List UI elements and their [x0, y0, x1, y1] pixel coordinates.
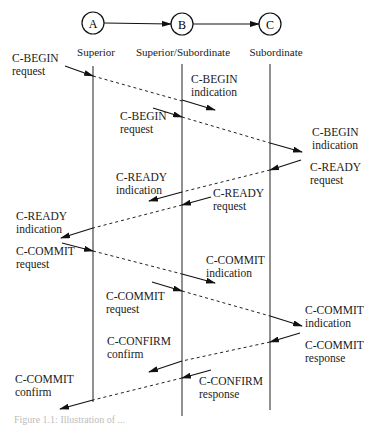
msg-label-commit-indication-c: C-COMMITindication: [305, 304, 364, 330]
node-a-letter: A: [89, 17, 98, 31]
msg-label-confirm-response-b: C-CONFIRMresponse: [199, 375, 263, 401]
msg-label-begin-indication-c: C-BEGINindication: [312, 126, 359, 152]
primitive-arrows: [60, 66, 302, 409]
msg-label-commit-request-a: C-COMMITrequest: [16, 245, 75, 271]
role-label-superior: Superior: [77, 46, 115, 58]
msg-label-commit-response-c: C-COMMITresponse: [305, 339, 364, 365]
chain-arrow-a-b: [104, 23, 171, 24]
node-c-letter: C: [266, 18, 274, 32]
arrow-confirm-confirm-b: [149, 361, 182, 372]
msg-label-ready-indication-b: C-READYindication: [116, 171, 167, 197]
role-label-superior-subordinate: Superior/Subordinate: [136, 46, 230, 58]
flow-commit-c-b: [182, 342, 270, 361]
msg-label-begin-request-b: C-BEGINrequest: [120, 110, 167, 136]
msg-label-commit-confirm-a: C-COMMITconfirm: [15, 373, 74, 399]
sequence-diagram: A B C Superior Superior/Subordinate Subo…: [0, 0, 378, 426]
msg-label-begin-indication-b: C-BEGINindication: [191, 73, 238, 99]
flow-ready-b-a: [93, 205, 182, 228]
flow-commit-a-b: [93, 251, 182, 274]
arrow-ready-request-c: [270, 160, 301, 170]
msg-label-ready-indication-a: C-READYindication: [16, 210, 67, 236]
arrow-commit-confirm-a: [60, 400, 93, 409]
msg-label-confirm-confirm-b: C-CONFIRMconfirm: [107, 335, 171, 361]
flow-begin-b-c: [182, 117, 270, 143]
msg-label-commit-request-b: C-COMMITrequest: [106, 290, 165, 316]
msg-label-ready-request-c: C-READYrequest: [310, 161, 361, 187]
msg-label-commit-indication-b: C-COMMITindication: [206, 254, 265, 280]
arrow-ready-request-b: [182, 197, 211, 205]
msg-label-begin-request-a: C-BEGINrequest: [12, 52, 59, 78]
arrow-begin-request-a: [65, 66, 93, 76]
arrow-commit-response-c: [270, 333, 300, 342]
figure-caption: Figure 1.1: Illustration of ...: [14, 414, 125, 425]
msg-label-ready-request-b: C-READYrequest: [213, 187, 264, 213]
flow-confirm-b-a: [93, 378, 182, 400]
arrow-commit-indication-c: [270, 316, 302, 326]
role-label-subordinate: Subordinate: [249, 46, 302, 58]
arrow-begin-indication-c: [270, 143, 302, 152]
flow-begin-a-b: [93, 76, 182, 101]
arrow-begin-indication-b: [182, 100, 215, 110]
node-b-letter: B: [178, 18, 186, 32]
flow-commit-b-c: [182, 291, 270, 316]
